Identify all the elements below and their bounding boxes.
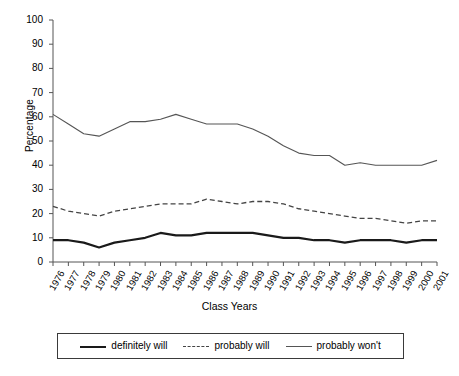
- legend-item-probably-wont: probably won't: [286, 341, 381, 351]
- legend-label: definitely will: [111, 341, 167, 351]
- legend-label: probably won't: [317, 341, 381, 351]
- legend-label: probably will: [214, 341, 269, 351]
- legend-item-definitely-will: definitely will: [80, 341, 167, 351]
- legend-item-probably-will: probably will: [183, 341, 269, 351]
- line-chart: Percentage 0102030405060708090100 197619…: [0, 0, 459, 376]
- x-axis-ticks: 1976197719781979198019811982198319841985…: [0, 0, 459, 376]
- x-axis-title: Class Years: [0, 300, 459, 312]
- chart-legend: definitely will probably will probably w…: [57, 333, 404, 359]
- legend-swatch-solid-thick-icon: [80, 342, 106, 350]
- legend-swatch-solid-thin-icon: [286, 342, 312, 350]
- legend-swatch-dashed-icon: [183, 342, 209, 350]
